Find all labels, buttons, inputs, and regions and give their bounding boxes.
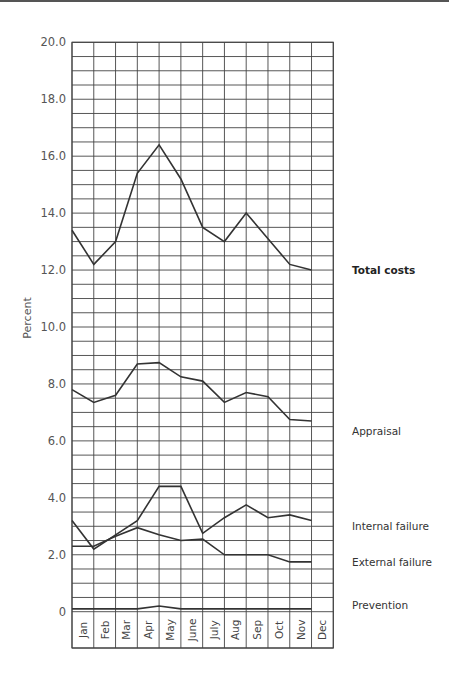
x-tick-label: Jan [77, 622, 89, 639]
x-tick-label: Mar [120, 619, 132, 639]
y-tick-label: 2.0 [48, 548, 66, 562]
series-label: Total costs [352, 264, 415, 276]
data-series-lines [72, 145, 312, 609]
chart-grid [72, 42, 333, 648]
x-tick-label: Dec [316, 619, 328, 640]
series-labels: Total costsAppraisalInternal failureExte… [352, 264, 432, 611]
series-line [72, 606, 312, 609]
x-tick-label: Oct [273, 621, 285, 639]
series-label: Internal failure [352, 520, 429, 532]
x-tick-label: Feb [99, 620, 111, 639]
y-tick-label: 12.0 [40, 263, 66, 277]
x-tick-label: Sep [251, 620, 263, 640]
x-tick-label: June [186, 618, 198, 642]
line-chart: 02.04.06.08.010.012.014.016.018.020.0 Ja… [0, 0, 449, 682]
x-tick-label: Apr [142, 620, 154, 639]
y-tick-label: 8.0 [48, 377, 66, 391]
y-tick-label: 0 [59, 605, 66, 619]
y-tick-label: 18.0 [40, 92, 66, 106]
series-label: Appraisal [352, 425, 401, 437]
y-tick-label: 16.0 [40, 149, 66, 163]
y-axis-ticks: 02.04.06.08.010.012.014.016.018.020.0 [40, 35, 66, 618]
series-label: Prevention [352, 599, 408, 611]
x-tick-label: Nov [295, 620, 307, 641]
y-tick-label: 20.0 [40, 35, 66, 49]
series-line [72, 145, 312, 270]
y-tick-label: 4.0 [48, 491, 66, 505]
y-tick-label: 10.0 [40, 320, 66, 334]
series-label: External failure [352, 556, 432, 568]
x-tick-label: July [208, 620, 220, 640]
y-tick-label: 6.0 [48, 434, 66, 448]
y-tick-label: 14.0 [40, 206, 66, 220]
series-line [72, 528, 312, 562]
x-tick-label: May [164, 619, 176, 641]
y-axis-label: Percent [21, 297, 34, 339]
x-tick-label: Aug [229, 620, 241, 641]
